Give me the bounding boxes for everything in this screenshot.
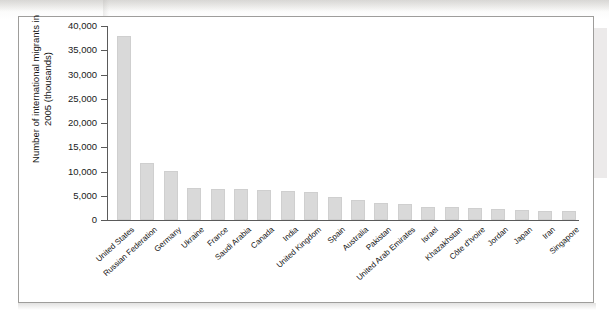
bar (445, 207, 459, 220)
bar (187, 188, 201, 220)
x-axis-tick-label: Canada (250, 225, 277, 250)
y-axis-tick-label: 40,000 (35, 21, 97, 31)
x-axis-tick-label: Israel (420, 225, 441, 245)
y-axis-tick-label: 35,000 (35, 45, 97, 55)
bar (374, 203, 388, 220)
bar (515, 210, 529, 220)
bar (211, 189, 225, 220)
x-axis-tick-label: Japan (512, 225, 534, 246)
bar (164, 171, 178, 220)
x-axis-tick-label: Jordan (486, 225, 510, 248)
bar (491, 209, 505, 220)
bar (562, 211, 576, 220)
scan-shadow-bottom (18, 303, 596, 310)
y-axis-tick-label: 0 (35, 215, 97, 225)
bar (281, 191, 295, 220)
bar (234, 189, 248, 220)
y-axis-tick-labels: 40,00035,00030,00025,00020,00015,00010,0… (31, 17, 97, 227)
x-axis-line (107, 220, 579, 221)
bar (140, 163, 154, 220)
plot-area: Number of international migrants in 2005… (19, 17, 595, 304)
bar (538, 211, 552, 220)
bar (117, 36, 131, 220)
y-axis-tick-label: 15,000 (35, 142, 97, 152)
y-axis-tick-label: 5,000 (35, 191, 97, 201)
x-axis-tick-label: Ukraine (180, 225, 207, 250)
scan-streak-top (0, 0, 609, 12)
y-axis-tick-label: 20,000 (35, 118, 97, 128)
bar (257, 190, 271, 220)
x-axis-tick-label: Iran (541, 225, 557, 241)
x-axis-tick-labels: United StatesRussian FederationGermanyUk… (107, 225, 597, 303)
figure-box: Number of international migrants in 2005… (18, 16, 594, 303)
x-axis-tick-label: India (281, 225, 300, 243)
y-axis-tick-label: 10,000 (35, 167, 97, 177)
bar (421, 207, 435, 220)
y-axis-tick-label: 25,000 (35, 94, 97, 104)
bar (328, 197, 342, 220)
bar-series (107, 26, 579, 220)
bar (398, 204, 412, 220)
bar (351, 200, 365, 220)
bar (468, 208, 482, 220)
bar (304, 192, 318, 220)
y-axis-tick-label: 30,000 (35, 70, 97, 80)
